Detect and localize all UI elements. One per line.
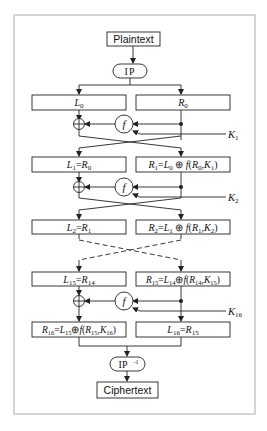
xor-icon — [74, 182, 85, 193]
xor-icon — [74, 119, 85, 130]
svg-text:Plaintext: Plaintext — [113, 33, 153, 45]
xor-icon — [74, 296, 85, 307]
svg-text:Ciphertext: Ciphertext — [104, 384, 152, 396]
svg-text:IP: IP — [119, 359, 128, 370]
initial-permutation-box: IP — [113, 64, 147, 78]
svg-text:IP: IP — [125, 66, 136, 77]
final-permutation-box: IP -1 — [110, 357, 145, 371]
plaintext-box: Plaintext — [107, 32, 160, 46]
ciphertext-box: Ciphertext — [97, 382, 158, 398]
svg-text:-1: -1 — [134, 359, 139, 365]
des-diagram: Plaintext IP L0 R0 L1=R0 R1=L0 ⊕ f(R0,K1… — [0, 0, 267, 431]
